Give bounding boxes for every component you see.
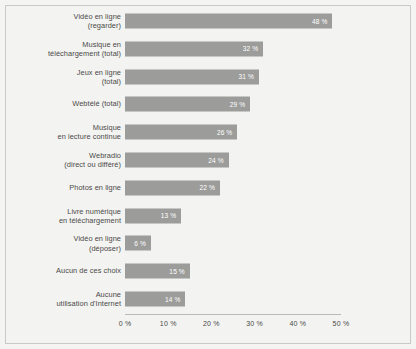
category-label-line: (déposer) [14, 243, 121, 252]
category-label-line: (regarder) [14, 21, 121, 30]
bar-value-label: 14 % [165, 296, 180, 303]
bar[interactable]: 6 % [125, 236, 151, 251]
bar[interactable]: 15 % [125, 264, 190, 279]
category-label-line: Photos en ligne [14, 183, 121, 192]
bar[interactable]: 24 % [125, 153, 229, 168]
category-label-line: Vidéo en ligne [14, 12, 121, 21]
x-axis-tick-label: 0 % [119, 320, 132, 327]
bar[interactable]: 32 % [125, 41, 263, 56]
category-label-line: (total) [14, 77, 121, 86]
bar-row: Webradio(direct ou différé)24 % [0, 147, 416, 173]
bar-row: Musique entéléchargement (total)32 % [0, 36, 416, 62]
category-label: Vidéo en ligne(déposer) [14, 234, 121, 252]
category-label: Photos en ligne [14, 183, 121, 192]
category-label-line: en téléchargement [14, 216, 121, 225]
category-label-line: Webtélé (total) [14, 100, 121, 109]
bar[interactable]: 14 % [125, 292, 185, 307]
x-axis-line [125, 314, 341, 315]
category-label-line: Livre numérique [14, 206, 121, 215]
bar-value-label: 32 % [243, 45, 258, 52]
category-label-line: (direct ou différé) [14, 160, 121, 169]
category-label: Livre numériqueen téléchargement [14, 206, 121, 224]
bar-row: Aucun de ces choix15 % [0, 258, 416, 284]
category-label-line: Webradio [14, 151, 121, 160]
bar-row: Webtélé (total)29 % [0, 91, 416, 117]
bar[interactable]: 31 % [125, 69, 259, 84]
bar[interactable]: 13 % [125, 208, 181, 223]
category-label: Musique entéléchargement (total) [14, 40, 121, 58]
bar[interactable]: 29 % [125, 97, 250, 112]
category-label-line: utilisation d'Internet [14, 299, 121, 308]
bar-value-label: 24 % [208, 157, 223, 164]
bar-row: Aucuneutilisation d'Internet14 % [0, 286, 416, 312]
category-label-line: Musique en [14, 40, 121, 49]
category-label-line: en lecture continue [14, 132, 121, 141]
x-axis-tick-label: 30 % [246, 320, 263, 327]
bar-chart-plot-area: Vidéo en ligne(regarder)48 %Musique enté… [0, 0, 416, 349]
bar-value-label: 29 % [230, 101, 245, 108]
category-label-line: téléchargement (total) [14, 49, 121, 58]
bar-row: Jeux en ligne(total)31 % [0, 64, 416, 90]
bar-row: Livre numériqueen téléchargement13 % [0, 203, 416, 229]
bar-value-label: 15 % [169, 268, 184, 275]
category-label-line: Aucun de ces choix [14, 267, 121, 276]
x-axis-tick-label: 20 % [203, 320, 220, 327]
chart-screenshot: Vidéo en ligne(regarder)48 %Musique enté… [0, 0, 416, 349]
category-label: Webtélé (total) [14, 100, 121, 109]
bar-row: Vidéo en ligne(regarder)48 % [0, 8, 416, 34]
category-label: Jeux en ligne(total) [14, 67, 121, 85]
bar-row: Vidéo en ligne(déposer)6 % [0, 230, 416, 256]
x-axis-tick-label: 40 % [289, 320, 306, 327]
bar[interactable]: 22 % [125, 180, 220, 195]
bar-value-label: 26 % [217, 129, 232, 136]
category-label: Musiqueen lecture continue [14, 123, 121, 141]
category-label: Aucun de ces choix [14, 267, 121, 276]
bar-row: Photos en ligne22 % [0, 175, 416, 201]
x-axis-tick-label: 10 % [160, 320, 177, 327]
bar-value-label: 13 % [161, 212, 176, 219]
category-label: Webradio(direct ou différé) [14, 151, 121, 169]
category-label-line: Vidéo en ligne [14, 234, 121, 243]
category-label-line: Musique [14, 123, 121, 132]
bar-row: Musiqueen lecture continue26 % [0, 119, 416, 145]
x-axis-tick-label: 50 % [333, 320, 350, 327]
bar-value-label: 22 % [200, 184, 215, 191]
bar-value-label: 31 % [238, 73, 253, 80]
category-label: Vidéo en ligne(regarder) [14, 12, 121, 30]
bar-value-label: 6 % [134, 240, 146, 247]
category-label: Aucuneutilisation d'Internet [14, 290, 121, 308]
category-label-line: Jeux en ligne [14, 67, 121, 76]
bar[interactable]: 26 % [125, 125, 237, 140]
bar-value-label: 48 % [312, 18, 327, 25]
bar[interactable]: 48 % [125, 14, 332, 29]
category-label-line: Aucune [14, 290, 121, 299]
